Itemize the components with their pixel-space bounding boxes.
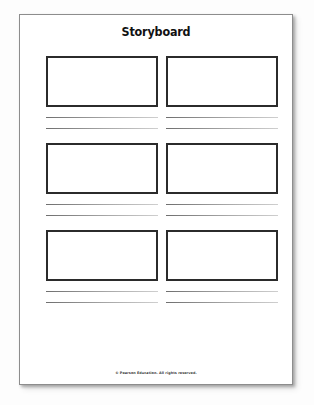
storyboard-row-rules xyxy=(46,204,278,216)
storyboard-cell xyxy=(166,143,278,194)
storyboard-cell xyxy=(46,143,158,194)
storyboard-frame[interactable] xyxy=(46,230,158,281)
storyboard-row xyxy=(46,230,278,303)
rule-line-row xyxy=(46,117,278,118)
writing-rule-line[interactable] xyxy=(46,215,158,216)
writing-rule-line[interactable] xyxy=(166,117,278,118)
storyboard-frame[interactable] xyxy=(166,230,278,281)
writing-rule-line[interactable] xyxy=(46,128,158,129)
writing-rule-line[interactable] xyxy=(46,302,158,303)
writing-rule-line[interactable] xyxy=(46,291,158,292)
rule-line-row xyxy=(46,291,278,292)
storyboard-row xyxy=(46,56,278,129)
writing-rule-line[interactable] xyxy=(46,117,158,118)
rule-line-row xyxy=(46,204,278,205)
screenshot-canvas: Storyboard xyxy=(0,0,314,405)
storyboard-frame[interactable] xyxy=(46,143,158,194)
writing-rule-line[interactable] xyxy=(166,128,278,129)
rule-line-row xyxy=(46,128,278,129)
storyboard-row-frames xyxy=(46,230,278,281)
writing-rule-line[interactable] xyxy=(46,204,158,205)
page-footer: © Pearson Education. All rights reserved… xyxy=(20,371,292,375)
storyboard-row-rules xyxy=(46,117,278,129)
worksheet-page: Storyboard xyxy=(19,14,293,385)
copyright-notice: © Pearson Education. All rights reserved… xyxy=(20,371,292,375)
storyboard-cell xyxy=(166,56,278,107)
writing-rule-line[interactable] xyxy=(166,291,278,292)
storyboard-row xyxy=(46,143,278,216)
storyboard-grid xyxy=(46,56,278,303)
page-title: Storyboard xyxy=(39,24,273,39)
rule-line-row xyxy=(46,302,278,303)
storyboard-row-frames xyxy=(46,143,278,194)
storyboard-row-frames xyxy=(46,56,278,107)
storyboard-frame[interactable] xyxy=(166,56,278,107)
writing-rule-line[interactable] xyxy=(166,204,278,205)
storyboard-cell xyxy=(46,56,158,107)
writing-rule-line[interactable] xyxy=(166,215,278,216)
storyboard-row-rules xyxy=(46,291,278,303)
storyboard-cell xyxy=(166,230,278,281)
rule-line-row xyxy=(46,215,278,216)
storyboard-frame[interactable] xyxy=(46,56,158,107)
writing-rule-line[interactable] xyxy=(166,302,278,303)
storyboard-cell xyxy=(46,230,158,281)
storyboard-frame[interactable] xyxy=(166,143,278,194)
